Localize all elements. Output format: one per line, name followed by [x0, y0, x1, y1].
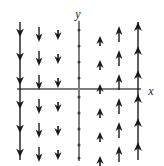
x-axis-label: x: [148, 85, 153, 97]
y-axis-tick: [78, 112, 81, 115]
y-axis-tick: [78, 96, 81, 99]
arrow-column-down-medium: [34, 22, 45, 162]
arrow-column-down-long: [15, 22, 26, 160]
y-axis-tick: [78, 157, 81, 160]
y-axis-tick: [78, 144, 81, 147]
y-axis-tick: [78, 29, 81, 32]
y-axis-label: y: [75, 8, 80, 20]
arrow-column-up-medium: [114, 26, 125, 162]
y-axis: [78, 21, 80, 161]
arrow-column-up-long: [133, 22, 144, 160]
slope-field-figure: y x: [0, 0, 164, 166]
y-axis-tick: [78, 45, 81, 48]
y-axis-tick: [78, 61, 81, 64]
y-axis-tick: [78, 128, 81, 131]
y-axis-tick: [78, 77, 81, 80]
arrow-column-up-short: [95, 34, 106, 162]
arrow-column-down-short: [53, 24, 64, 162]
